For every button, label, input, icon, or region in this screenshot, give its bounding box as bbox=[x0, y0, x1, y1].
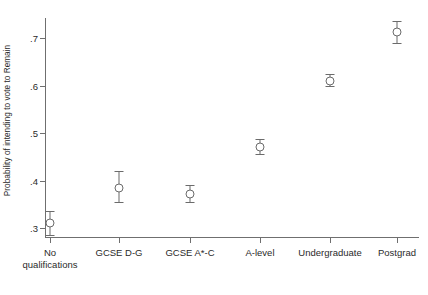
error-bar-cap-upper bbox=[256, 139, 265, 140]
x-tick-mark bbox=[119, 238, 120, 243]
data-point-marker bbox=[256, 143, 265, 152]
error-bar-cap-lower bbox=[256, 154, 265, 155]
error-bar-line bbox=[50, 211, 51, 235]
error-bar-cap-upper bbox=[393, 21, 402, 22]
y-tick-mark bbox=[40, 228, 45, 229]
error-bar-cap-upper bbox=[115, 171, 124, 172]
error-bar-line bbox=[190, 185, 191, 202]
data-point-marker bbox=[115, 183, 124, 192]
error-bar-cap-lower bbox=[115, 202, 124, 203]
error-bar-cap-lower bbox=[186, 202, 195, 203]
x-tick-mark bbox=[260, 238, 261, 243]
x-tick-mark bbox=[190, 238, 191, 243]
y-tick-mark bbox=[40, 38, 45, 39]
x-tick-mark bbox=[50, 238, 51, 243]
error-bar-line bbox=[119, 171, 120, 202]
x-tick-label: No qualifications bbox=[23, 247, 78, 270]
error-bar-line bbox=[260, 139, 261, 154]
error-bar-cap-lower bbox=[46, 235, 55, 236]
error-bar-line bbox=[397, 21, 398, 42]
y-axis-title-label: Probability of intending to vote to Rema… bbox=[4, 44, 13, 195]
education-remain-vote-chart: Probability of intending to vote to Rema… bbox=[0, 0, 428, 295]
x-tick-label: Postgrad bbox=[378, 247, 416, 259]
error-bar-cap-lower bbox=[326, 86, 335, 87]
y-tick-label: .7 bbox=[14, 33, 38, 44]
x-tick-label: GCSE D-G bbox=[96, 247, 143, 259]
x-axis-line bbox=[45, 237, 419, 238]
y-tick-mark bbox=[40, 86, 45, 87]
y-tick-label: .3 bbox=[14, 223, 38, 234]
x-tick-label: Undergraduate bbox=[298, 247, 361, 259]
error-bar-cap-upper bbox=[326, 74, 335, 75]
data-point-marker bbox=[393, 28, 402, 37]
error-bar-line bbox=[330, 74, 331, 87]
error-bar-cap-upper bbox=[186, 185, 195, 186]
x-tick-label: A-level bbox=[245, 247, 274, 259]
y-tick-mark bbox=[40, 133, 45, 134]
error-bar-cap-upper bbox=[46, 211, 55, 212]
x-tick-mark bbox=[330, 238, 331, 243]
data-point-marker bbox=[186, 189, 195, 198]
x-tick-mark bbox=[397, 238, 398, 243]
y-tick-label: .6 bbox=[14, 80, 38, 91]
y-tick-mark bbox=[40, 181, 45, 182]
y-tick-label: .4 bbox=[14, 175, 38, 186]
x-tick-label: GCSE A*-C bbox=[165, 247, 214, 259]
y-tick-label: .5 bbox=[14, 128, 38, 139]
data-point-marker bbox=[326, 76, 335, 85]
data-point-marker bbox=[46, 219, 55, 228]
y-axis-line bbox=[45, 18, 46, 237]
error-bar-cap-lower bbox=[393, 43, 402, 44]
